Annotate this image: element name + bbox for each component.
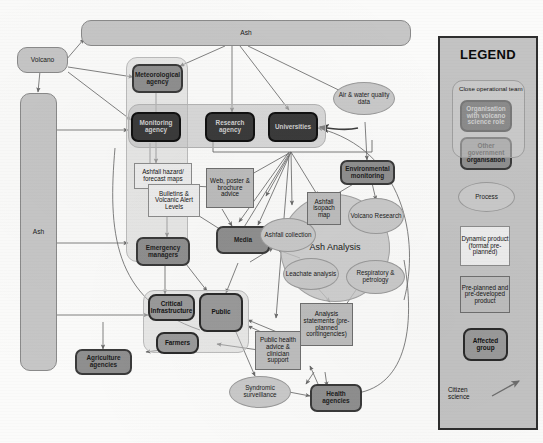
public-label: Public: [210, 309, 231, 316]
legend-panel: LEGEND Close operational team Organisati…: [438, 36, 538, 430]
diagram-canvas: Ash Ash Volcano Meteorological agency Mo…: [0, 0, 543, 443]
ash-source-top: Ash: [81, 20, 411, 46]
respiratory-petrology-node: Respiratory & petrology: [346, 260, 405, 294]
volcano-research-node: Volcano Research: [348, 198, 404, 234]
environmental-monitoring-label: Environmental monitoring: [342, 166, 393, 179]
public-health-advice-node: Public health advice & clinician support: [255, 331, 301, 370]
volcano-node: Volcano: [17, 47, 68, 73]
ash-source-top-label: Ash: [239, 30, 252, 37]
farmers-node: Farmers: [156, 332, 199, 354]
analysis-statements-label: Analysis statements (pre-planned conting…: [301, 311, 352, 337]
ash-source-left: Ash: [20, 93, 57, 371]
agriculture-agencies-node: Agriculture agencies: [75, 349, 132, 375]
health-agencies-label: Health agencies: [312, 391, 360, 404]
universities-label: Universities: [274, 124, 312, 131]
legend-dynamic-product-label: Dynamic product (format pre-planned): [461, 236, 509, 256]
ashfall-isopach-map-label: Ashfall isopach map: [308, 199, 340, 219]
agriculture-agencies-label: Agriculture agencies: [77, 355, 130, 368]
ashfall-hazard-maps-label: Ashfall hazard/ forecast maps: [135, 169, 191, 182]
air-water-quality-data-label: Air & water quality data: [334, 92, 394, 105]
volcano-research-label: Volcano Research: [349, 213, 402, 220]
legend-title: LEGEND: [440, 47, 536, 62]
volcano-label: Volcano: [30, 57, 55, 64]
web-poster-brochure-node: Web, poster & brochure advice: [206, 168, 254, 208]
ash-source-left-label: Ash: [32, 229, 45, 236]
web-poster-brochure-label: Web, poster & brochure advice: [207, 178, 253, 198]
bulletins-alert-levels-label: Bulletins & Volcanic Alert Levels: [149, 191, 199, 211]
legend-affected-group-label: Affected group: [465, 338, 506, 351]
public-node: Public: [199, 293, 243, 332]
emergency-managers-label: Emergency managers: [138, 245, 188, 258]
research-agency-label: Research agency: [207, 120, 253, 133]
health-agencies-node: Health agencies: [310, 384, 362, 412]
leachate-analysis-node: Leachate analysis: [283, 258, 339, 290]
legend-process-label: Process: [475, 194, 498, 201]
air-water-quality-data-node: Air & water quality data: [333, 82, 395, 115]
legend-affected-group-swatch: Affected group: [463, 328, 508, 361]
legend-preplanned-product-swatch: Pre-planned and pre-developed product: [460, 276, 510, 313]
meteorological-agency-node: Meteorological agency: [132, 64, 183, 93]
analysis-statements-node: Analysis statements (pre-planned conting…: [300, 303, 353, 346]
ash-analysis-label: Ash Analysis: [308, 243, 361, 252]
legend-citizen-science-label: Citizen science: [448, 386, 490, 400]
legend-process-swatch: Process: [458, 182, 515, 212]
environmental-monitoring-node: Environmental monitoring: [340, 160, 395, 185]
meteorological-agency-label: Meteorological agency: [134, 72, 181, 85]
ashfall-isopach-map-node: Ashfall isopach map: [307, 192, 341, 225]
public-health-advice-label: Public health advice & clinician support: [256, 337, 300, 363]
critical-infrastructure-label: Critical Infrastructure: [150, 301, 194, 314]
ashfall-collection-label: Ashfall collection: [264, 232, 313, 239]
monitoring-agency-node: Monitoring agency: [131, 112, 181, 142]
citizen-science-arrow-icon: [488, 374, 530, 400]
research-agency-node: Research agency: [205, 112, 255, 142]
leachate-analysis-label: Leachate analysis: [285, 271, 337, 278]
critical-infrastructure-node: Critical Infrastructure: [148, 294, 195, 321]
bulletins-alert-levels-node: Bulletins & Volcanic Alert Levels: [148, 184, 200, 217]
syndromic-surveillance-node: Syndromic surveillance: [229, 376, 291, 408]
media-label: Media: [233, 237, 253, 244]
legend-close-operational-team-swatch: Close operational team: [452, 80, 525, 158]
farmers-label: Farmers: [164, 340, 191, 347]
legend-close-operational-team-label: Close operational team: [459, 86, 537, 93]
monitoring-agency-label: Monitoring agency: [133, 120, 179, 133]
emergency-managers-node: Emergency managers: [136, 237, 190, 266]
legend-dynamic-product-swatch: Dynamic product (format pre-planned): [460, 226, 510, 266]
universities-node: Universities: [268, 112, 318, 142]
syndromic-surveillance-label: Syndromic surveillance: [230, 385, 290, 398]
respiratory-petrology-label: Respiratory & petrology: [347, 270, 404, 283]
legend-preplanned-product-label: Pre-planned and pre-developed product: [461, 285, 509, 305]
